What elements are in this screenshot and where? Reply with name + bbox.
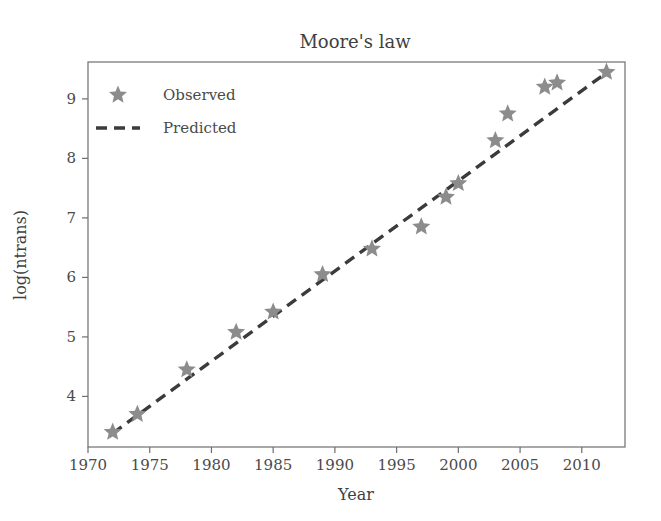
- y-axis: 456789: [66, 90, 88, 406]
- chart-legend: ObservedPredicted: [96, 86, 237, 138]
- x-tick-label: 2010: [563, 456, 601, 474]
- observed-point: [412, 217, 430, 234]
- y-axis-title: log(ntrans): [11, 210, 30, 300]
- x-axis: 197019751980198519901995200020052010: [69, 447, 601, 474]
- y-tick-label: 7: [66, 209, 76, 227]
- x-tick-label: 1975: [131, 456, 169, 474]
- y-tick-label: 8: [66, 149, 76, 167]
- y-tick-label: 6: [66, 268, 76, 286]
- x-tick-label: 1985: [254, 456, 292, 474]
- observed-point: [548, 73, 566, 90]
- x-axis-title: Year: [337, 485, 374, 504]
- observed-point: [499, 104, 517, 121]
- x-tick-label: 2005: [501, 456, 539, 474]
- legend-label: Observed: [163, 86, 236, 104]
- y-tick-label: 5: [66, 328, 76, 346]
- observed-point: [227, 323, 245, 340]
- legend-label: Predicted: [163, 119, 237, 137]
- y-tick-label: 9: [66, 90, 76, 108]
- y-tick-label: 4: [66, 387, 76, 405]
- x-tick-label: 1970: [69, 456, 107, 474]
- observed-point: [437, 188, 455, 205]
- observed-point: [104, 423, 122, 440]
- x-tick-label: 2000: [439, 456, 477, 474]
- x-tick-label: 1990: [316, 456, 354, 474]
- legend-marker-star: [109, 86, 127, 103]
- observed-point: [363, 239, 381, 256]
- chart-figure: Moore's law 1970197519801985199019952000…: [0, 0, 661, 521]
- observed-point: [486, 131, 504, 148]
- chart-canvas: Moore's law 1970197519801985199019952000…: [0, 0, 661, 521]
- x-tick-label: 1980: [192, 456, 230, 474]
- chart-title: Moore's law: [299, 31, 411, 52]
- x-tick-label: 1995: [378, 456, 416, 474]
